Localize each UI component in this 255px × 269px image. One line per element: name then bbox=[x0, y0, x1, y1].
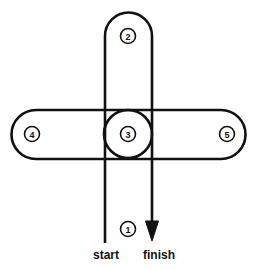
badge-4: 4 bbox=[25, 127, 40, 142]
route-diagram: 1 2 3 4 5 start finish bbox=[0, 0, 255, 269]
badge-2-label: 2 bbox=[125, 32, 130, 42]
finish-arrow-icon bbox=[146, 221, 159, 241]
diagram-canvas: 1 2 3 4 5 start finish bbox=[0, 0, 255, 269]
finish-label: finish bbox=[143, 248, 175, 262]
badge-5: 5 bbox=[220, 127, 235, 142]
badge-5-label: 5 bbox=[224, 130, 229, 140]
badge-1: 1 bbox=[121, 222, 136, 237]
start-label: start bbox=[93, 248, 119, 262]
badge-1-label: 1 bbox=[125, 225, 130, 235]
badge-2: 2 bbox=[121, 29, 136, 44]
badge-4-label: 4 bbox=[29, 130, 34, 140]
badge-3: 3 bbox=[121, 127, 136, 142]
badge-3-label: 3 bbox=[125, 130, 130, 140]
